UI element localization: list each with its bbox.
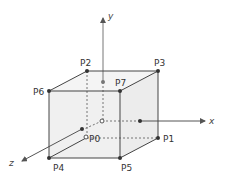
label-p7: P7: [115, 78, 126, 88]
label-p6: P6: [33, 87, 44, 97]
vertex-dot-p6: [47, 89, 51, 93]
vertex-dot-p3: [156, 69, 160, 73]
origin-dot: [100, 119, 104, 123]
cube-diagram: y x z P0 P1 P2: [0, 0, 225, 180]
cube-faces: [49, 71, 158, 158]
vertex-dot-p1: [156, 136, 160, 140]
label-p4: P4: [53, 163, 64, 173]
vertex-dot-p2: [85, 69, 89, 73]
label-p3: P3: [154, 58, 165, 68]
z-axis-dot: [80, 127, 84, 131]
x-axis-dot: [138, 119, 142, 123]
label-p0: P0: [89, 134, 100, 144]
label-p5: P5: [121, 163, 132, 173]
vertex-dot-p0: [84, 135, 88, 139]
vertex-dot-p4: [47, 156, 51, 160]
vertex-dot-p5: [118, 156, 122, 160]
x-axis-label: x: [208, 116, 215, 126]
y-axis-label: y: [107, 11, 114, 21]
label-p2: P2: [80, 58, 91, 68]
label-p1: P1: [163, 134, 174, 144]
vertex-dot-p7: [118, 89, 122, 93]
y-axis-dot: [101, 80, 105, 84]
z-axis-label: z: [8, 158, 14, 168]
